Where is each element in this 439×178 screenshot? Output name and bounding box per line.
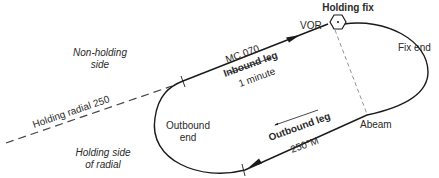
fix-end-label: Fix end bbox=[398, 42, 431, 53]
holding-side-label-2: of radial bbox=[85, 159, 121, 170]
outbound-arrow-icon bbox=[248, 159, 262, 169]
inbound-arrow-icon bbox=[286, 35, 300, 43]
non-holding-side-label-2: side bbox=[91, 59, 110, 70]
vor-icon bbox=[330, 15, 346, 29]
non-holding-side-label-1: Non-holding bbox=[73, 47, 127, 58]
outbound-end-label-1: Outbound bbox=[166, 120, 210, 131]
outbound-course-label: 250°M bbox=[289, 135, 320, 155]
holding-fix-label: Holding fix bbox=[322, 2, 374, 13]
holding-pattern-diagram: Holding fix VOR Fix end Non-holding side… bbox=[0, 0, 439, 178]
holding-radial-line bbox=[6, 86, 172, 143]
vor-label: VOR bbox=[300, 20, 322, 31]
abeam-label: Abeam bbox=[360, 119, 392, 130]
outbound-end-label-2: end bbox=[180, 132, 197, 143]
outbound-leg-label: Outbound leg bbox=[267, 110, 332, 143]
holding-side-label-1: Holding side bbox=[75, 147, 130, 158]
abeam-dashed-line bbox=[335, 30, 367, 114]
